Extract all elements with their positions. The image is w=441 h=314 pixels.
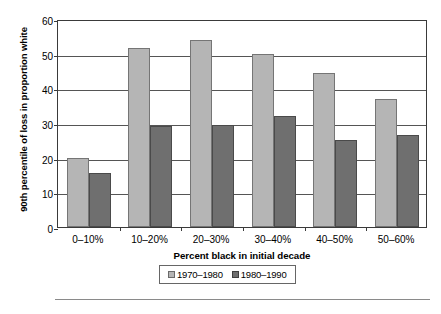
chart-legend: 1970–19801980–1990 — [159, 265, 296, 284]
x-tick-label: 10–20% — [131, 234, 168, 245]
bar-group — [120, 21, 182, 227]
bar-series-1980-1990 — [274, 116, 296, 227]
x-tick-mark — [366, 227, 367, 231]
x-tick-label: 30–40% — [254, 234, 291, 245]
legend-item: 1980–1990 — [232, 269, 287, 280]
plot-area: 0102030405060 — [57, 20, 427, 228]
y-tick-label: 20 — [42, 154, 58, 165]
y-tick-label: 60 — [42, 16, 58, 27]
legend-swatch-icon — [168, 271, 175, 278]
x-tick-label: 0–10% — [72, 234, 103, 245]
y-tick-label: 50 — [42, 50, 58, 61]
legend-label: 1970–1980 — [177, 269, 223, 280]
bar-series-1970-1980 — [252, 54, 274, 227]
y-tick-label: 30 — [42, 120, 58, 131]
x-tick-mark — [243, 227, 244, 231]
bar-series-1970-1980 — [190, 40, 212, 227]
bar-series-1980-1990 — [89, 173, 111, 227]
x-tick-mark — [305, 227, 306, 231]
x-tick-mark — [120, 227, 121, 231]
x-axis-title: Percent black in initial decade — [57, 250, 427, 261]
bar-series-1970-1980 — [375, 99, 397, 227]
legend-item: 1970–1980 — [168, 269, 223, 280]
x-tick-mark — [181, 227, 182, 231]
bar-group — [305, 21, 367, 227]
bar-group — [366, 21, 428, 227]
bar-chart-figure: 90th percentile of loss in proportion wh… — [0, 0, 441, 314]
bottom-divider — [55, 299, 430, 300]
y-tick-label: 10 — [42, 189, 58, 200]
x-tick-label: 50–60% — [378, 234, 415, 245]
bar-series-1980-1990 — [150, 126, 172, 227]
y-tick-label: 0 — [47, 224, 58, 235]
x-tick-label: 40–50% — [316, 234, 353, 245]
bar-series-1980-1990 — [335, 140, 357, 227]
bar-series-1970-1980 — [67, 158, 89, 227]
bar-series-1970-1980 — [128, 48, 150, 227]
legend-label: 1980–1990 — [241, 269, 287, 280]
legend-swatch-icon — [232, 271, 239, 278]
bar-group — [58, 21, 120, 227]
y-tick-label: 40 — [42, 85, 58, 96]
bar-series-1980-1990 — [212, 125, 234, 227]
y-axis-title: 90th percentile of loss in proportion wh… — [18, 5, 29, 235]
bar-series-1970-1980 — [313, 73, 335, 227]
x-tick-label: 20–30% — [193, 234, 230, 245]
bar-group — [181, 21, 243, 227]
bar-series-1980-1990 — [397, 135, 419, 227]
bar-group — [243, 21, 305, 227]
